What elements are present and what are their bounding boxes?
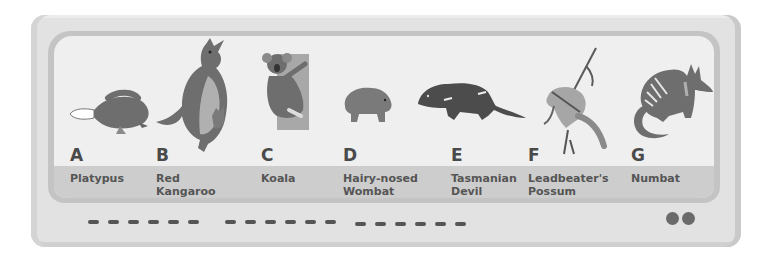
indicator-dot-2 xyxy=(682,212,695,225)
dash xyxy=(305,220,316,224)
dash xyxy=(285,220,296,224)
dash xyxy=(265,220,276,224)
dash xyxy=(245,220,256,224)
animal-name: Numbat xyxy=(631,172,714,185)
dash xyxy=(375,222,386,226)
animal-letter: E xyxy=(451,145,463,165)
dash xyxy=(148,220,159,224)
dash xyxy=(128,220,139,224)
dash-group-3 xyxy=(355,222,475,226)
animal-card-koala: C Koala xyxy=(259,36,339,198)
leadbeaters-possum-icon xyxy=(534,46,624,156)
dash xyxy=(325,220,336,224)
tasmanian-devil-icon xyxy=(414,76,529,126)
platypus-icon xyxy=(68,88,158,138)
animal-name: Leadbeater's Possum xyxy=(528,172,638,198)
dash xyxy=(455,222,466,226)
animal-letter: A xyxy=(70,145,83,165)
animal-letter: D xyxy=(343,145,357,165)
dash-group-2 xyxy=(225,220,345,224)
animal-display-screen: A Platypus B Red Kangaroo xyxy=(54,36,714,198)
animal-letter: G xyxy=(631,145,645,165)
animal-card-tasmanian-devil: E Tasmanian Devil xyxy=(414,36,534,198)
animal-letter: C xyxy=(261,145,273,165)
dash xyxy=(168,220,179,224)
animal-letter: B xyxy=(156,145,169,165)
dash xyxy=(188,220,199,224)
dash-group-1 xyxy=(88,220,208,224)
animal-card-red-kangaroo: B Red Kangaroo xyxy=(154,36,254,198)
dash xyxy=(108,220,119,224)
indicator-dot-1 xyxy=(666,212,679,225)
dash xyxy=(435,222,446,226)
dash xyxy=(395,222,406,226)
animal-card-numbat: G Numbat xyxy=(629,36,714,198)
animal-card-platypus: A Platypus xyxy=(68,36,158,198)
dash xyxy=(355,222,366,226)
numbat-icon xyxy=(629,56,714,146)
wombat-icon xyxy=(341,84,401,128)
dash xyxy=(88,220,99,224)
dash xyxy=(415,222,426,226)
koala-icon xyxy=(259,50,319,130)
animal-letter: F xyxy=(528,145,540,165)
kangaroo-icon xyxy=(154,36,254,154)
dash xyxy=(225,220,236,224)
animal-name: Red Kangaroo xyxy=(156,172,266,198)
animal-card-leadbeaters-possum: F Leadbeater's Possum xyxy=(524,36,634,198)
